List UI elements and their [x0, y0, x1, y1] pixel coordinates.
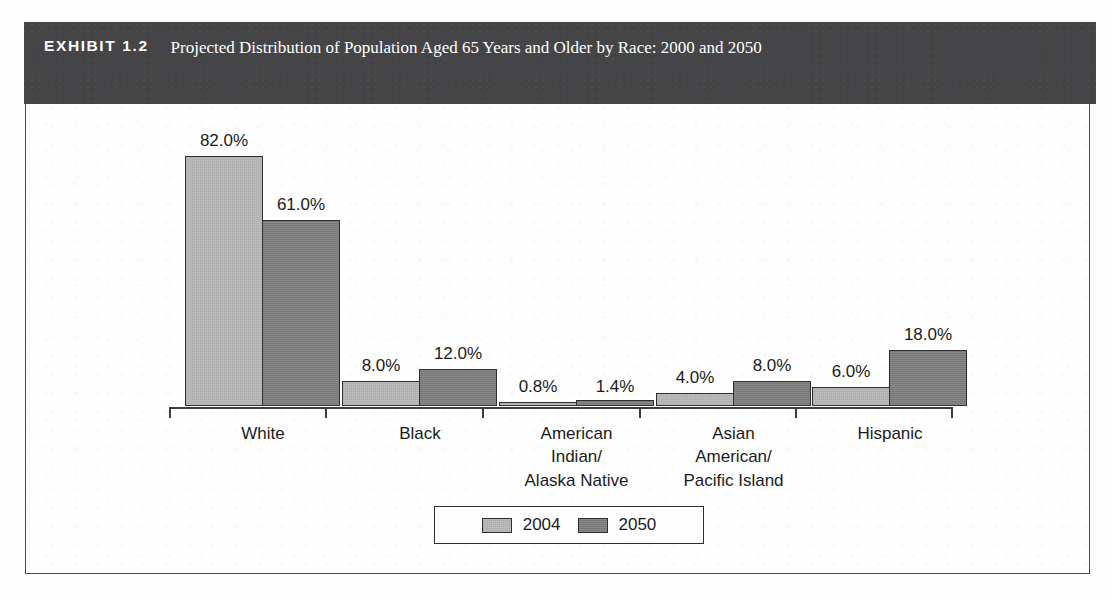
exhibit-page: EXHIBIT 1.2 Projected Distribution of Po…	[0, 0, 1113, 599]
category-label-line: Pacific Island	[656, 469, 811, 492]
legend-item-2004[interactable]: 2004	[482, 515, 561, 535]
legend-swatch-icon-2050	[578, 518, 608, 533]
bar-white-2004[interactable]	[185, 156, 263, 406]
bar-hispanic-2004[interactable]	[812, 387, 890, 406]
bar-value-label-american-indian-2004: 0.8%	[499, 377, 577, 397]
bar-value-label-white-2050: 61.0%	[262, 195, 340, 215]
bar-white-2050[interactable]	[262, 220, 340, 406]
bar-value-label-hispanic-2050: 18.0%	[886, 325, 970, 345]
bar-black-2004[interactable]	[342, 381, 420, 406]
exhibit-number-label: EXHIBIT 1.2	[44, 36, 149, 55]
exhibit-header: EXHIBIT 1.2 Projected Distribution of Po…	[24, 22, 1096, 104]
legend-label-2004: 2004	[523, 515, 561, 535]
bars-layer: 82.0% 61.0% White 8.0% 12.0% Black 0.8%	[26, 104, 1089, 573]
bar-value-label-black-2004: 8.0%	[342, 356, 420, 376]
category-label-hispanic: Hispanic	[830, 422, 950, 445]
bar-value-label-asian-american-2004: 4.0%	[656, 368, 734, 388]
bar-asian-american-2050[interactable]	[733, 381, 811, 406]
category-label-line: Hispanic	[830, 422, 950, 445]
category-label-line: White	[203, 422, 323, 445]
category-label-line: American/	[656, 445, 811, 468]
category-label-line: Alaska Native	[499, 469, 654, 492]
bar-hispanic-2050[interactable]	[889, 350, 967, 406]
legend-swatch-icon-2004	[482, 518, 512, 533]
category-label-line: Indian/	[499, 445, 654, 468]
category-label-white: White	[203, 422, 323, 445]
category-label-black: Black	[360, 422, 480, 445]
bar-value-label-white-2004: 82.0%	[185, 131, 263, 151]
bar-american-indian-2050[interactable]	[576, 400, 654, 406]
category-label-line: Asian	[656, 422, 811, 445]
category-label-american-indian: American Indian/ Alaska Native	[499, 422, 654, 492]
category-label-asian-american: Asian American/ Pacific Island	[656, 422, 811, 492]
chart-legend: 2004 2050	[434, 506, 704, 544]
bar-american-indian-2004[interactable]	[499, 402, 577, 406]
legend-label-2050: 2050	[619, 515, 657, 535]
category-label-line: American	[499, 422, 654, 445]
chart-panel: 82.0% 61.0% White 8.0% 12.0% Black 0.8%	[25, 104, 1090, 574]
bar-value-label-black-2050: 12.0%	[416, 344, 500, 364]
bar-value-label-asian-american-2050: 8.0%	[733, 356, 811, 376]
bar-asian-american-2004[interactable]	[656, 393, 734, 406]
bar-black-2050[interactable]	[419, 369, 497, 406]
legend-item-2050[interactable]: 2050	[578, 515, 657, 535]
bar-chart-plot: 82.0% 61.0% White 8.0% 12.0% Black 0.8%	[26, 104, 1089, 573]
bar-value-label-american-indian-2050: 1.4%	[576, 377, 654, 397]
bar-value-label-hispanic-2004: 6.0%	[812, 362, 890, 382]
exhibit-title: Projected Distribution of Population Age…	[171, 36, 762, 60]
category-label-line: Black	[360, 422, 480, 445]
